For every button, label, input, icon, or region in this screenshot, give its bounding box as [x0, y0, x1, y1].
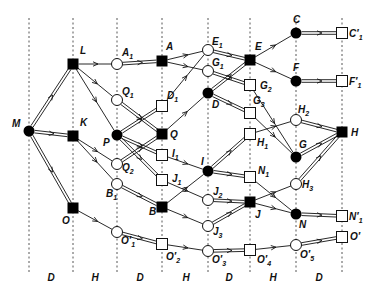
edge-O3p-O4p — [213, 248, 244, 252]
node-label: P — [103, 137, 110, 148]
node-C1p — [337, 28, 348, 39]
band-labels: DHDHDHD — [47, 272, 322, 283]
edge-O5p-Op — [301, 237, 337, 246]
node-C — [291, 28, 302, 39]
node-H1 — [245, 129, 256, 140]
edge-A-E1 — [167, 51, 202, 59]
edge-O-O1p — [78, 211, 112, 230]
node-label: A1 — [121, 47, 133, 60]
edge-J2-J — [213, 199, 244, 203]
node-label: H3 — [302, 179, 313, 192]
node-label: N1 — [258, 165, 269, 178]
node-O4p — [245, 245, 256, 256]
edge-O4p-O5p — [255, 246, 290, 250]
node-label: G — [299, 139, 307, 150]
node-G2 — [245, 80, 256, 91]
node-B — [157, 202, 168, 213]
node-label: D — [212, 99, 219, 110]
node-label: E — [255, 41, 262, 52]
node-label: O′1 — [121, 235, 135, 248]
node-O2p — [157, 239, 168, 250]
node-label: D1 — [167, 90, 178, 103]
node-label: N — [299, 219, 307, 230]
node-J1 — [157, 175, 168, 186]
node-Op — [337, 232, 348, 243]
node-G — [291, 152, 302, 163]
node-A — [157, 56, 168, 67]
node-label: I — [201, 156, 204, 167]
node-label: C — [293, 14, 301, 25]
node-Q1 — [112, 95, 123, 106]
node-label: Q1 — [122, 86, 134, 99]
edge-A1-A — [122, 60, 156, 65]
node-H2 — [291, 115, 302, 126]
node-label: G2 — [260, 80, 272, 93]
edge-O2p-O3p — [167, 245, 202, 250]
node-label: Q — [170, 129, 178, 140]
node-label: L — [80, 45, 86, 56]
node-label: Q2 — [122, 162, 134, 175]
node-label: O′ — [350, 231, 361, 242]
edge-B1-B — [121, 185, 157, 205]
edge-L-Q1 — [77, 67, 112, 96]
node-label: C′1 — [349, 28, 363, 41]
node-N — [291, 209, 302, 220]
arrow-icon — [270, 118, 275, 123]
node-label: B — [149, 206, 156, 217]
edge-M-L — [31, 68, 71, 127]
node-H — [337, 127, 348, 138]
band-label: H — [182, 272, 190, 283]
edge-L-A1 — [79, 62, 112, 66]
node-A1 — [112, 59, 123, 70]
node-label: O′5 — [300, 249, 314, 262]
edge-J1-J2 — [167, 182, 203, 198]
edge-P-D1 — [121, 108, 158, 133]
node-G3 — [245, 108, 256, 119]
node-O — [68, 203, 79, 214]
node-label: H — [351, 127, 359, 138]
node-label: G1 — [212, 57, 224, 70]
node-L — [68, 59, 79, 70]
edge-M-O — [31, 135, 72, 204]
edge-E-F — [255, 62, 291, 78]
band-label: H — [269, 272, 277, 283]
arrow-icon — [92, 97, 97, 102]
node-D1 — [157, 101, 168, 112]
node-H3 — [291, 179, 302, 190]
node-K — [68, 131, 79, 142]
node-label: M — [12, 118, 21, 129]
node-labels: MLKOA1Q1PQ2B1O′1AD1QI1J1BO′2E1G1DIJ2J3O′… — [12, 14, 363, 267]
node-J — [245, 197, 256, 208]
node-label: E1 — [212, 36, 223, 49]
node-label: N′1 — [349, 211, 363, 224]
edge-N-N1p — [301, 213, 336, 217]
edge-F-F1p — [302, 79, 337, 83]
node-J2 — [203, 195, 214, 206]
node-D — [203, 88, 214, 99]
node-E — [245, 55, 256, 66]
node-label: F — [293, 62, 300, 73]
edge-J-N — [255, 203, 290, 212]
node-label: O′3 — [212, 254, 226, 267]
band-label: D — [315, 272, 322, 283]
node-F — [291, 76, 302, 87]
edge-I-H1 — [211, 137, 246, 169]
edge-I-N1 — [213, 170, 244, 177]
band-label: D — [47, 272, 54, 283]
band-label: D — [136, 272, 143, 283]
node-I — [203, 166, 214, 177]
node-Q2 — [112, 159, 123, 170]
node-label: J3 — [213, 226, 223, 239]
node-F1p — [337, 76, 348, 87]
edge-J3-J — [212, 204, 246, 225]
node-N1 — [245, 172, 256, 183]
edge-Q-D — [166, 97, 204, 131]
arrow-icon — [92, 147, 97, 152]
node-I1 — [157, 150, 168, 161]
node-N1p — [337, 211, 348, 222]
node-label: A — [165, 41, 173, 52]
node-label: B1 — [106, 188, 117, 201]
node-M — [24, 126, 35, 137]
node-label: O′4 — [257, 254, 271, 267]
band-label: D — [225, 272, 232, 283]
